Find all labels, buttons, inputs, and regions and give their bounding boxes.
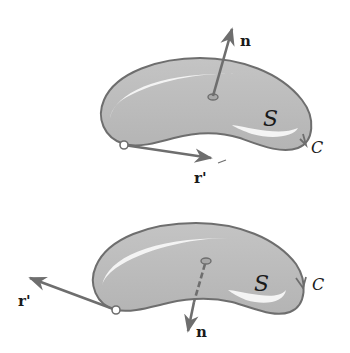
top-boundary-point	[120, 141, 128, 149]
bottom-boundary-point	[112, 306, 120, 314]
top-tangent-tick	[218, 160, 226, 163]
diagram-canvas: n r' S C n r' S C	[0, 0, 350, 353]
top-surface-label: S	[263, 106, 278, 131]
bottom-normal-base	[201, 258, 211, 264]
bottom-normal-label: n	[196, 323, 207, 341]
top-tangent-label: r'	[194, 169, 207, 187]
top-tangent-vector-icon	[124, 145, 211, 158]
bottom-figure: n r' S C	[18, 223, 324, 341]
top-curve-label: C	[311, 138, 323, 157]
top-normal-label: n	[240, 32, 251, 50]
bottom-tangent-label: r'	[18, 292, 31, 310]
bottom-normal-vector-icon	[188, 302, 194, 331]
bottom-curve-label: C	[312, 275, 324, 294]
diagram-svg: n r' S C n r' S C	[0, 0, 350, 353]
bottom-surface-label: S	[254, 271, 269, 296]
top-figure: n r' S C	[101, 29, 323, 187]
